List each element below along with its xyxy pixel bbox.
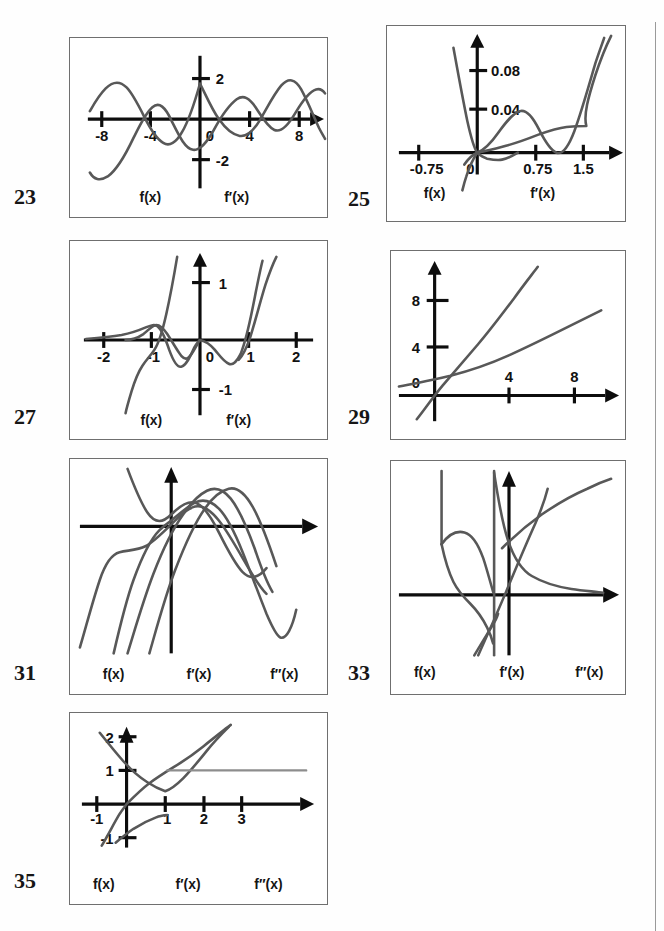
xtick-label-4: 4 — [505, 369, 514, 385]
plot-27: -2 -1 0 1 2 1 -1 f(x) f′(x) — [70, 241, 327, 439]
curve-label-fprime: f′(x) — [224, 189, 249, 205]
ytick-label-2: 2 — [216, 72, 224, 88]
curve-label-fprime: f′(x) — [187, 666, 212, 682]
plot-23: -8 -4 0 4 8 2 -2 f(x) f′(x) — [70, 38, 327, 217]
curve-label-fprime: f′(x) — [500, 664, 525, 680]
y-axis-arrow — [120, 727, 134, 743]
curve-label-fprime: f′(x) — [530, 185, 555, 201]
y-axis-arrow — [502, 471, 516, 487]
curve-f-hump — [442, 532, 494, 592]
figure-panel-35: -1 1 2 3 2 1 -1 f(x) f′(x) f″(x) — [69, 712, 328, 905]
exercise-number-33: 33 — [348, 660, 370, 686]
ytick-label-1: 1 — [219, 276, 227, 292]
plot-35: -1 1 2 3 2 1 -1 f(x) f′(x) f″(x) — [70, 713, 327, 904]
ytick-label-0.08: 0.08 — [491, 63, 520, 79]
curve-label-f: f(x) — [140, 189, 162, 205]
curve-label-fdoubleprime: f″(x) — [254, 876, 282, 892]
figure-panel-25: -0.75 0 0.75 1.5 0.08 0.04 f(x) f′(x) — [386, 25, 626, 222]
x-axis-arrow — [605, 389, 619, 403]
ytick-label-0.04: 0.04 — [491, 102, 521, 118]
plot-25: -0.75 0 0.75 1.5 0.08 0.04 f(x) f′(x) — [387, 26, 625, 221]
y-axis-arrow — [428, 261, 442, 275]
figure-panel-27: -2 -1 0 1 2 1 -1 f(x) f′(x) — [69, 240, 328, 440]
exercise-number-29: 29 — [348, 404, 370, 430]
xtick-label-4: 2 — [292, 349, 300, 365]
x-axis-arrow — [609, 146, 623, 160]
ytick-label--1: -1 — [219, 382, 232, 398]
exercise-number-25: 25 — [348, 186, 370, 212]
figure-panel-33: f(x) f′(x) f″(x) — [390, 460, 626, 695]
curve-c — [114, 501, 297, 654]
exercise-number-27: 27 — [14, 404, 36, 430]
xtick-label-2: 0 — [206, 349, 214, 365]
y-axis-arrow — [164, 467, 178, 483]
y-axis-arrow — [193, 253, 207, 267]
xtick-label-0: -0.75 — [410, 161, 444, 177]
xtick-label-3: 1 — [246, 349, 254, 365]
ytick-label-4: 4 — [412, 340, 421, 356]
xtick-label-3: 1.5 — [573, 161, 594, 177]
curve-label-f: f(x) — [93, 876, 115, 892]
xtick-label-2: 2 — [200, 811, 208, 827]
xtick-label-2: 0.75 — [523, 161, 552, 177]
ytick-label--2: -2 — [216, 153, 229, 169]
plot-29: 4 8 8 4 0 — [391, 251, 625, 439]
plot-33: f(x) f′(x) f″(x) — [391, 461, 625, 694]
plot-31: f(x) f′(x) f″(x) — [70, 459, 327, 694]
x-axis-arrow — [302, 518, 318, 534]
curve-label-f: f(x) — [141, 412, 163, 428]
figure-panel-23: -8 -4 0 4 8 2 -2 f(x) f′(x) — [69, 37, 328, 218]
curve-fprime — [102, 725, 231, 846]
xtick-label--1: -1 — [90, 811, 103, 827]
xtick-label-0: -2 — [97, 349, 110, 365]
page-vertical-rule — [655, 22, 656, 931]
xtick-label-4: 8 — [295, 128, 303, 144]
exercise-number-35: 35 — [14, 868, 36, 894]
xtick-label-1: 1 — [163, 811, 171, 827]
curve-label-fdoubleprime: f″(x) — [575, 664, 603, 680]
xtick-label-3: 3 — [238, 811, 246, 827]
x-axis-arrow — [300, 797, 314, 811]
curve-label-fprime: f′(x) — [176, 876, 201, 892]
ytick-label-1: 1 — [105, 763, 113, 779]
exercise-number-23: 23 — [14, 184, 36, 210]
y-axis-arrow — [470, 34, 484, 48]
curve-fpp-log — [502, 479, 611, 548]
exercise-number-31: 31 — [14, 660, 36, 686]
curve-label-fprime: f′(x) — [226, 412, 251, 428]
figure-page: 23 -8 -4 0 4 8 2 -2 — [0, 0, 664, 931]
curve-label-fdoubleprime: f″(x) — [270, 666, 298, 682]
curve-label-f: f(x) — [414, 664, 436, 680]
curve-label-f: f(x) — [103, 666, 125, 682]
figure-panel-29: 4 8 8 4 0 — [390, 250, 626, 440]
xtick-label-0: -8 — [95, 128, 108, 144]
ytick-label-8: 8 — [412, 293, 420, 309]
x-axis-arrow — [603, 587, 619, 603]
curve-label-f: f(x) — [424, 185, 446, 201]
xtick-label-8: 8 — [570, 369, 578, 385]
figure-panel-31: f(x) f′(x) f″(x) — [69, 458, 328, 695]
